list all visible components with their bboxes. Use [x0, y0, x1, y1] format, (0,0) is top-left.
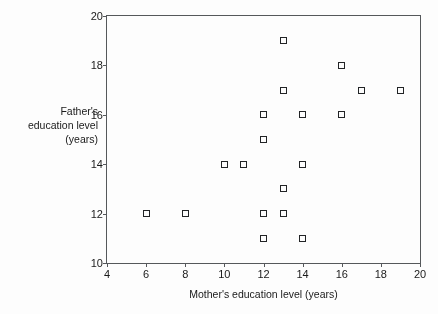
data-point-marker [397, 87, 404, 94]
x-axis-title: Mother's education level (years) [106, 288, 421, 301]
data-point-marker [240, 161, 247, 168]
plot-frame: 101214161820468101214161820 [106, 15, 421, 264]
x-axis-tick-label: 20 [414, 269, 426, 280]
y-axis-tick-mark [103, 164, 107, 165]
data-point-marker [221, 161, 228, 168]
data-point-marker [299, 235, 306, 242]
data-point-marker [299, 161, 306, 168]
y-axis-tick-label: 20 [91, 11, 103, 22]
y-axis-tick-mark [103, 214, 107, 215]
data-point-marker [280, 87, 287, 94]
x-axis-tick-label: 12 [257, 269, 269, 280]
x-axis-tick-label: 6 [143, 269, 149, 280]
y-axis-tick-mark [103, 115, 107, 116]
y-axis-tick-label: 12 [91, 208, 103, 219]
data-point-marker [260, 210, 267, 217]
data-point-marker [358, 87, 365, 94]
y-axis-tick-label: 18 [91, 60, 103, 71]
y-axis-title-line-1: Father's [6, 104, 98, 118]
x-axis-tick-mark [107, 263, 108, 267]
x-axis-tick-mark [185, 263, 186, 267]
scatter-plot-figure: 101214161820468101214161820 Father's edu… [0, 0, 438, 314]
x-axis-tick-mark [342, 263, 343, 267]
data-point-marker [280, 185, 287, 192]
data-point-marker [280, 37, 287, 44]
y-axis-title-line-2: education level [6, 118, 98, 132]
x-axis-tick-label: 4 [104, 269, 110, 280]
data-point-marker [260, 235, 267, 242]
x-axis-tick-mark [420, 263, 421, 267]
x-axis-tick-mark [303, 263, 304, 267]
x-axis-tick-label: 14 [297, 269, 309, 280]
y-axis-tick-mark [103, 16, 107, 17]
data-point-marker [182, 210, 189, 217]
data-point-marker [260, 136, 267, 143]
x-axis-tick-mark [224, 263, 225, 267]
data-point-marker [299, 111, 306, 118]
y-axis-title: Father's education level (years) [6, 104, 98, 146]
y-axis-tick-label: 14 [91, 159, 103, 170]
x-axis-tick-label: 8 [182, 269, 188, 280]
x-axis-tick-mark [381, 263, 382, 267]
x-axis-tick-mark [264, 263, 265, 267]
y-axis-tick-label: 10 [91, 258, 103, 269]
data-point-marker [143, 210, 150, 217]
y-axis-tick-mark [103, 65, 107, 66]
x-axis-tick-label: 16 [336, 269, 348, 280]
x-axis-tick-label: 18 [375, 269, 387, 280]
data-point-marker [338, 62, 345, 69]
x-axis-tick-mark [146, 263, 147, 267]
data-point-marker [280, 210, 287, 217]
data-point-marker [260, 111, 267, 118]
data-point-marker [338, 111, 345, 118]
plot-area [107, 16, 420, 263]
y-axis-title-line-3: (years) [6, 132, 98, 146]
x-axis-tick-label: 10 [218, 269, 230, 280]
